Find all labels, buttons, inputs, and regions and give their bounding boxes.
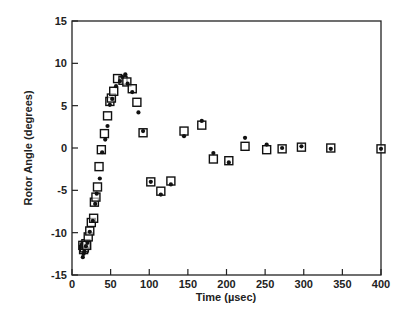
dot-marker bbox=[114, 84, 118, 88]
x-axis: 050100150200250300350400 bbox=[69, 269, 390, 290]
dot-marker bbox=[103, 137, 107, 141]
dot-marker bbox=[91, 219, 95, 223]
dot-marker bbox=[265, 143, 269, 147]
dot-marker bbox=[299, 144, 303, 148]
square-marker bbox=[133, 98, 141, 106]
square-marker bbox=[110, 87, 118, 95]
y-tick-label: -15 bbox=[51, 269, 67, 281]
dot-marker bbox=[93, 202, 97, 206]
x-tick-label: 50 bbox=[105, 278, 117, 290]
scatter-chart: -15-10-5051015 050100150200250300350400 … bbox=[0, 0, 408, 316]
dot-marker bbox=[159, 192, 163, 196]
series-open-squares bbox=[79, 75, 385, 254]
dot-marker bbox=[118, 79, 122, 83]
data-series bbox=[79, 72, 385, 259]
square-marker bbox=[241, 142, 249, 150]
y-axis-title: Rotor Angle (degrees) bbox=[22, 90, 34, 205]
dot-marker bbox=[200, 119, 204, 123]
y-tick-label: 0 bbox=[61, 142, 67, 154]
dot-marker bbox=[329, 147, 333, 151]
y-axis: -15-10-5051015 bbox=[51, 15, 78, 281]
square-marker bbox=[209, 155, 217, 163]
series-filled-dots bbox=[81, 72, 383, 259]
x-tick-label: 200 bbox=[217, 278, 235, 290]
dot-marker bbox=[88, 230, 92, 234]
x-tick-label: 400 bbox=[372, 278, 390, 290]
dot-marker bbox=[169, 182, 173, 186]
dot-marker bbox=[227, 160, 231, 164]
y-tick-label: 15 bbox=[55, 15, 67, 27]
dot-marker bbox=[379, 147, 383, 151]
dot-marker bbox=[136, 110, 140, 114]
x-tick-label: 250 bbox=[256, 278, 274, 290]
x-tick-label: 300 bbox=[295, 278, 313, 290]
y-tick-label: 5 bbox=[61, 100, 67, 112]
dot-marker bbox=[123, 72, 127, 76]
dot-marker bbox=[182, 134, 186, 138]
dot-marker bbox=[110, 97, 114, 101]
y-tick-label: -10 bbox=[51, 227, 67, 239]
square-marker bbox=[95, 163, 103, 171]
dot-marker bbox=[98, 176, 102, 180]
x-axis-title: Time (µsec) bbox=[196, 291, 257, 303]
square-marker bbox=[263, 146, 271, 154]
dot-marker bbox=[82, 249, 86, 253]
dot-marker bbox=[85, 241, 89, 245]
dot-marker bbox=[149, 180, 153, 184]
dot-marker bbox=[108, 103, 112, 107]
x-tick-label: 100 bbox=[140, 278, 158, 290]
y-tick-label: -5 bbox=[57, 184, 67, 196]
dot-marker bbox=[211, 151, 215, 155]
square-marker bbox=[104, 112, 112, 120]
dot-marker bbox=[141, 129, 145, 133]
square-marker bbox=[180, 127, 188, 135]
dot-marker bbox=[105, 124, 109, 128]
y-tick-label: 10 bbox=[55, 57, 67, 69]
dot-marker bbox=[95, 192, 99, 196]
square-marker bbox=[100, 130, 108, 138]
x-tick-label: 0 bbox=[69, 278, 75, 290]
dot-marker bbox=[126, 82, 130, 86]
dot-marker bbox=[243, 136, 247, 140]
dot-marker bbox=[280, 146, 284, 150]
x-tick-label: 150 bbox=[179, 278, 197, 290]
dot-marker bbox=[130, 90, 134, 94]
x-tick-label: 350 bbox=[333, 278, 351, 290]
dot-marker bbox=[100, 150, 104, 154]
square-marker bbox=[93, 183, 101, 191]
